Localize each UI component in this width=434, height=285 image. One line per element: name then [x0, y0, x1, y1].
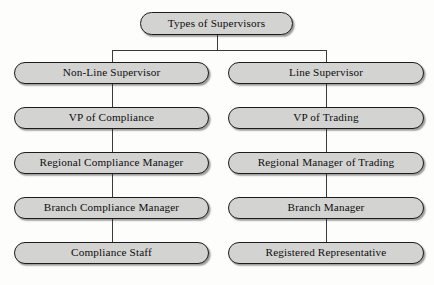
node-label: VP of Compliance	[69, 112, 154, 123]
node-label: Line Supervisor	[289, 67, 363, 78]
node-label: Non-Line Supervisor	[63, 67, 161, 78]
connector-root-stem	[217, 34, 218, 51]
node-non-line-supervisor: Non-Line Supervisor	[14, 62, 209, 84]
node-vp-of-trading: VP of Trading	[228, 107, 424, 129]
connector-left-link-3	[112, 173, 113, 198]
node-label: Compliance Staff	[71, 247, 152, 258]
node-label: Branch Manager	[288, 202, 365, 213]
connector-right-link-2	[326, 128, 327, 153]
connector-left-link-1	[112, 83, 113, 108]
org-chart-diagram: Types of Supervisors Non-Line Supervisor…	[0, 0, 434, 285]
connector-right-link-1	[326, 83, 327, 108]
node-label: Regional Compliance Manager	[40, 157, 184, 168]
node-registered-representative: Registered Representative	[228, 242, 424, 264]
node-regional-manager-of-trading: Regional Manager of Trading	[228, 152, 424, 174]
node-root-types-of-supervisors: Types of Supervisors	[140, 12, 293, 35]
connector-left-link-2	[112, 128, 113, 153]
node-vp-of-compliance: VP of Compliance	[14, 107, 209, 129]
node-label: VP of Trading	[293, 112, 359, 123]
node-branch-manager: Branch Manager	[228, 197, 424, 219]
node-branch-compliance-manager: Branch Compliance Manager	[14, 197, 209, 219]
node-compliance-staff: Compliance Staff	[14, 242, 209, 264]
node-line-supervisor: Line Supervisor	[228, 62, 424, 84]
connector-horizontal-bus	[112, 50, 326, 51]
node-label: Registered Representative	[266, 247, 387, 258]
connector-right-link-4	[326, 218, 327, 243]
node-regional-compliance-manager: Regional Compliance Manager	[14, 152, 209, 174]
connector-left-link-4	[112, 218, 113, 243]
node-label: Branch Compliance Manager	[44, 202, 179, 213]
node-label: Regional Manager of Trading	[258, 157, 395, 168]
node-label: Types of Supervisors	[168, 17, 265, 28]
connector-right-link-3	[326, 173, 327, 198]
